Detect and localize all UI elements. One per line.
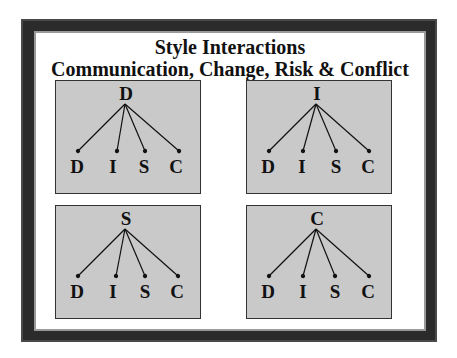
- child-letter-i: I: [103, 282, 123, 302]
- slide-title: Style Interactions: [36, 36, 424, 59]
- child-letter-c: C: [358, 157, 378, 177]
- root-letter: D: [116, 84, 136, 104]
- diagram-box-c: C D I S C: [246, 205, 392, 319]
- child-letter-d: D: [67, 282, 87, 302]
- diagram-box-i: I D I S C: [246, 80, 392, 194]
- diagram-box-d: D D I S C: [55, 80, 201, 194]
- diagram-box-s: S D I S C: [55, 205, 201, 319]
- root-letter: I: [307, 84, 327, 104]
- child-letter-s: S: [135, 282, 155, 302]
- slide-subtitle: Communication, Change, Risk & Conflict: [36, 58, 424, 81]
- child-letter-c: C: [166, 157, 186, 177]
- root-letter: C: [307, 209, 327, 229]
- child-letter-i: I: [103, 157, 123, 177]
- child-letter-s: S: [134, 157, 154, 177]
- child-letter-s: S: [325, 282, 345, 302]
- child-letter-d: D: [67, 157, 87, 177]
- child-letter-d: D: [258, 282, 278, 302]
- child-letter-d: D: [258, 157, 278, 177]
- child-letter-c: C: [358, 282, 378, 302]
- root-letter: S: [116, 209, 136, 229]
- child-letter-s: S: [326, 157, 346, 177]
- child-letter-i: I: [292, 157, 312, 177]
- child-letter-c: C: [167, 282, 187, 302]
- child-letter-i: I: [293, 282, 313, 302]
